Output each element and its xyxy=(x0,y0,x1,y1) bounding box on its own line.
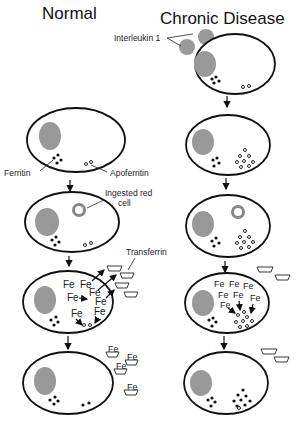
chronic-cell-5 xyxy=(184,352,268,414)
fe-label: Fe xyxy=(127,382,138,392)
nucleus xyxy=(34,367,56,395)
chronic-cell-3 xyxy=(186,195,270,257)
fe-label: Fe xyxy=(63,279,75,290)
transferrin-cup-icon xyxy=(107,266,122,271)
chronic-cell-4: Fe Fe Fe Fe Fe Fe Fe xyxy=(185,273,269,333)
red-cell-icon xyxy=(231,205,245,219)
label-apoferritin: Apoferritin xyxy=(110,168,149,178)
title-chronic-disease: Chronic Disease xyxy=(160,9,285,28)
transferrin-cup-icon xyxy=(257,267,273,272)
title-normal: Normal xyxy=(42,4,97,23)
fe-label: Fe xyxy=(94,306,106,317)
fe-transferrin-complex: Fe xyxy=(114,361,127,374)
transferrin-cup-icon xyxy=(261,349,277,354)
transferrin-cup-icon xyxy=(274,357,289,362)
transferrin-cup-icon xyxy=(120,273,134,278)
nucleus xyxy=(192,129,214,155)
transferrin-cup-icon xyxy=(124,292,138,297)
chronic-cell-2 xyxy=(186,115,270,175)
label-transferrin: Transferrin xyxy=(126,247,167,257)
nucleus xyxy=(194,51,216,77)
nucleus xyxy=(35,208,59,236)
fe-label: Fe xyxy=(250,293,261,303)
nucleus xyxy=(39,122,61,150)
nucleus xyxy=(190,370,212,396)
nucleus xyxy=(34,286,56,314)
fe-transferrin-complex: Fe xyxy=(106,344,119,357)
label-ferritin: Ferritin xyxy=(4,168,31,178)
iron-metabolism-diagram: Normal Chronic Disease Interleukin 1 xyxy=(0,0,300,423)
fe-label: Fe xyxy=(233,290,244,300)
transferrin-pointer xyxy=(128,258,135,270)
chronic-cell-1 xyxy=(179,29,275,94)
transferrin-cup-icon xyxy=(275,275,290,280)
transferrin-cup-icon xyxy=(115,283,129,288)
normal-cell-3: Fe Fe Fe Fe Fe Fe Fe xyxy=(23,270,116,333)
nucleus xyxy=(192,290,214,316)
fe-label: Fe xyxy=(229,279,240,289)
label-ingested-red-cell-1: Ingested red xyxy=(105,188,153,198)
fe-label: Fe xyxy=(243,281,254,291)
fe-transferrin-complex: Fe xyxy=(124,382,138,395)
fe-label: Fe xyxy=(214,279,225,289)
fe-label: Fe xyxy=(116,361,127,371)
label-ingested-red-cell-2: cell xyxy=(118,198,131,208)
interleukin-receptor xyxy=(179,39,195,55)
normal-cell-4 xyxy=(23,352,113,414)
normal-cell-1 xyxy=(27,108,125,172)
red-cell-icon xyxy=(72,203,86,217)
nucleus xyxy=(192,211,214,237)
fe-label: Fe xyxy=(127,352,138,362)
label-interleukin: Interleukin 1 xyxy=(114,33,161,43)
fe-label: Fe xyxy=(67,292,79,303)
fe-label: Fe xyxy=(71,308,83,319)
fe-label: Fe xyxy=(108,344,119,354)
fe-label: Fe xyxy=(218,290,229,300)
fe-transferrin-complex: Fe xyxy=(125,352,138,365)
normal-cell-2 xyxy=(25,192,119,252)
